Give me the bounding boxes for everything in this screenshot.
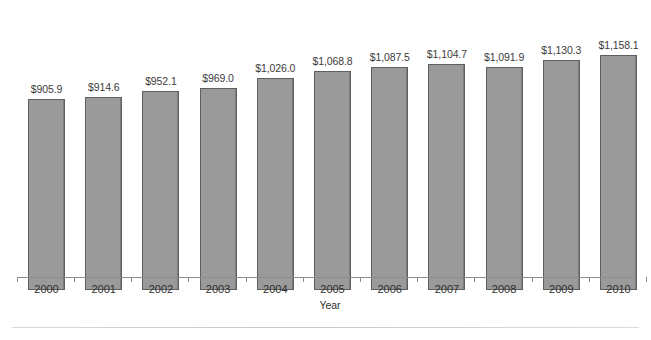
bar-group: $1,091.9 bbox=[486, 67, 523, 290]
bar-group: $1,026.0 bbox=[257, 78, 294, 290]
bar bbox=[428, 64, 465, 290]
x-axis-tick bbox=[246, 277, 247, 282]
bar-chart: $905.9$914.6$952.1$969.0$1,026.0$1,068.8… bbox=[0, 0, 651, 340]
bar bbox=[486, 67, 523, 290]
x-axis-tick bbox=[360, 277, 361, 282]
bar-value-label: $952.1 bbox=[145, 75, 177, 87]
bar-value-label: $1,130.3 bbox=[541, 44, 581, 56]
bar bbox=[600, 55, 637, 290]
x-axis-label: 2001 bbox=[91, 283, 115, 295]
bar bbox=[371, 67, 408, 290]
x-axis-tick bbox=[474, 277, 475, 282]
x-axis-tick bbox=[589, 277, 590, 282]
bar-value-label: $914.6 bbox=[88, 81, 120, 93]
bar-group: $1,104.7 bbox=[428, 64, 465, 290]
x-axis-label: 2010 bbox=[606, 283, 630, 295]
bar bbox=[543, 60, 580, 290]
x-axis-tick bbox=[74, 277, 75, 282]
x-axis-label: 2003 bbox=[206, 283, 230, 295]
bar-group: $952.1 bbox=[142, 91, 179, 290]
x-axis-tick bbox=[303, 277, 304, 282]
x-axis-label: 2000 bbox=[34, 283, 58, 295]
bar-group: $1,158.1 bbox=[600, 55, 637, 290]
x-axis-tick bbox=[532, 277, 533, 282]
x-axis-label: 2007 bbox=[435, 283, 459, 295]
x-axis-label: 2002 bbox=[149, 283, 173, 295]
bar bbox=[200, 88, 237, 290]
x-axis-label: 2009 bbox=[549, 283, 573, 295]
bar bbox=[142, 91, 179, 290]
bar bbox=[85, 97, 122, 290]
x-axis-title: Year bbox=[319, 299, 340, 311]
bar-value-label: $1,068.8 bbox=[312, 55, 352, 67]
x-axis-tick bbox=[17, 277, 18, 282]
bar-value-label: $1,158.1 bbox=[598, 39, 638, 51]
bar-value-label: $1,104.7 bbox=[427, 48, 467, 60]
x-axis-label: 2005 bbox=[320, 283, 344, 295]
x-axis-label: 2008 bbox=[492, 283, 516, 295]
x-axis-tick bbox=[188, 277, 189, 282]
x-axis-line bbox=[17, 277, 636, 278]
bar-value-label: $905.9 bbox=[31, 83, 63, 95]
x-axis-tick bbox=[646, 277, 647, 282]
bar-group: $1,130.3 bbox=[543, 60, 580, 290]
plot-area: $905.9$914.6$952.1$969.0$1,026.0$1,068.8… bbox=[0, 0, 651, 290]
bar bbox=[257, 78, 294, 290]
bar-value-label: $969.0 bbox=[202, 72, 234, 84]
bar-group: $1,068.8 bbox=[314, 71, 351, 290]
bar bbox=[314, 71, 351, 290]
bar-value-label: $1,087.5 bbox=[370, 51, 410, 63]
bar-group: $1,087.5 bbox=[371, 67, 408, 290]
bar-value-label: $1,091.9 bbox=[484, 51, 524, 63]
x-axis-tick bbox=[417, 277, 418, 282]
bar-group: $914.6 bbox=[85, 97, 122, 290]
bar-group: $905.9 bbox=[28, 99, 65, 290]
footer-divider bbox=[12, 327, 639, 328]
bar-group: $969.0 bbox=[200, 88, 237, 290]
x-axis-tick bbox=[131, 277, 132, 282]
x-axis-label: 2006 bbox=[377, 283, 401, 295]
bar-value-label: $1,026.0 bbox=[255, 62, 295, 74]
x-axis-label: 2004 bbox=[263, 283, 287, 295]
bar bbox=[28, 99, 65, 290]
